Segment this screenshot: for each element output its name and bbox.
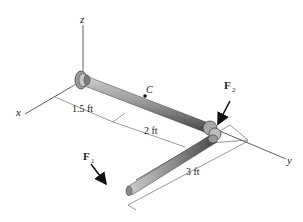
dimension-label-1-5ft: 1.5 ft <box>72 103 93 114</box>
force-f1-label: F 1 <box>83 150 95 165</box>
svg-text:F: F <box>83 150 90 162</box>
pipe-assembly-diagram: z x y C 1.5 ft 2 ft 3 ft F 2 F 1 <box>0 0 303 222</box>
svg-text:2: 2 <box>232 86 236 94</box>
point-c-label: C <box>146 84 153 95</box>
svg-text:F: F <box>224 79 231 91</box>
z-axis-label: z <box>79 13 85 25</box>
dimension-label-2ft: 2 ft <box>144 125 158 136</box>
x-axis-label: x <box>15 106 21 118</box>
force-f2-label: F 2 <box>224 79 236 94</box>
y-axis <box>215 129 286 159</box>
svg-text:1: 1 <box>91 157 95 165</box>
y-axis-label: y <box>286 154 292 166</box>
dimension-label-3ft: 3 ft <box>186 166 200 177</box>
force-f1-arrow <box>91 164 106 184</box>
force-f2-arrow <box>218 101 230 124</box>
